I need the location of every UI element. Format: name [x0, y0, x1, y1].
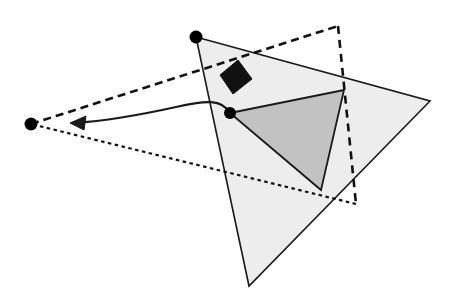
- vertex-dot-inner: [224, 107, 236, 119]
- vertex-dot-left: [25, 118, 38, 131]
- geometry-figure: [0, 0, 456, 296]
- vertex-dot-top: [190, 31, 203, 44]
- diagram-canvas: [0, 0, 456, 296]
